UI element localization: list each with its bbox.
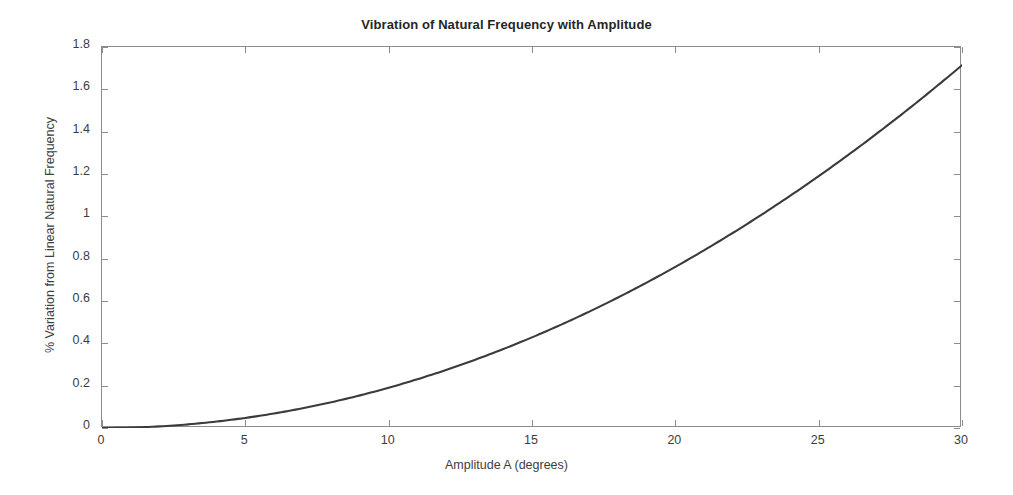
y-tick-mark	[954, 259, 960, 260]
x-tick-label: 5	[224, 433, 264, 447]
y-tick-mark	[954, 89, 960, 90]
x-tick-mark	[389, 420, 390, 426]
x-tick-mark	[102, 420, 103, 426]
x-tick-mark	[962, 420, 963, 426]
x-axis-label: Amplitude A (degrees)	[0, 458, 1013, 472]
x-tick-mark	[962, 47, 963, 53]
y-tick-mark	[954, 47, 960, 48]
y-tick-mark	[954, 174, 960, 175]
x-tick-mark	[102, 47, 103, 53]
y-tick-mark	[102, 132, 108, 133]
y-tick-mark	[102, 216, 108, 217]
x-tick-mark	[532, 47, 533, 53]
y-tick-mark	[102, 386, 108, 387]
y-tick-label: 1.8	[44, 37, 90, 51]
y-axis-label: % Variation from Linear Natural Frequenc…	[43, 70, 57, 400]
y-tick-mark	[102, 174, 108, 175]
y-tick-mark	[954, 386, 960, 387]
x-tick-label: 20	[654, 433, 694, 447]
y-tick-mark	[954, 343, 960, 344]
x-tick-mark	[675, 420, 676, 426]
y-tick-mark	[102, 428, 108, 429]
x-tick-mark	[245, 47, 246, 53]
y-tick-mark	[954, 216, 960, 217]
chart-title: Vibration of Natural Frequency with Ampl…	[0, 17, 1013, 32]
x-tick-mark	[245, 420, 246, 426]
x-tick-mark	[675, 47, 676, 53]
y-tick-mark	[102, 343, 108, 344]
x-tick-label: 30	[941, 433, 981, 447]
y-tick-mark	[954, 132, 960, 133]
x-tick-mark	[532, 420, 533, 426]
plot-inner	[102, 47, 960, 426]
x-tick-mark	[389, 47, 390, 53]
x-tick-label: 10	[368, 433, 408, 447]
x-tick-mark	[819, 47, 820, 53]
figure-canvas: Vibration of Natural Frequency with Ampl…	[0, 0, 1013, 495]
plot-area	[101, 46, 961, 427]
x-tick-label: 15	[511, 433, 551, 447]
y-tick-mark	[954, 428, 960, 429]
y-tick-label: 0	[44, 418, 90, 432]
y-tick-mark	[102, 89, 108, 90]
x-tick-label: 0	[81, 433, 121, 447]
y-tick-mark	[102, 301, 108, 302]
y-tick-mark	[102, 259, 108, 260]
x-tick-label: 25	[798, 433, 838, 447]
y-tick-mark	[954, 301, 960, 302]
x-tick-mark	[819, 420, 820, 426]
